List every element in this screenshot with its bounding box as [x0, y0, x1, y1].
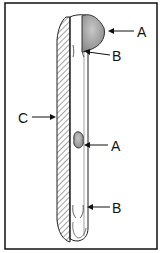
tube-cross-section-diagram: A B C A B: [0, 0, 160, 253]
hatched-wall: [57, 17, 70, 242]
deposit-middle: [74, 132, 84, 148]
label-a-top: A: [137, 24, 147, 40]
arrow-a-top: [108, 28, 134, 34]
label-b-bottom: B: [112, 200, 121, 216]
arrow-b-bottom: [87, 204, 110, 210]
deposit-top: [82, 15, 105, 52]
label-b-top: B: [112, 48, 121, 64]
label-a-middle: A: [111, 138, 121, 154]
arrow-c: [32, 114, 56, 120]
label-c: C: [18, 110, 28, 126]
diagram-frame: A B C A B: [0, 0, 160, 253]
